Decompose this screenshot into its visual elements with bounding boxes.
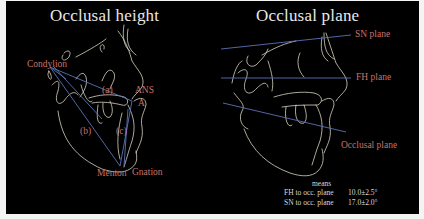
- means-row-sn-label: SN to occ. plane: [284, 198, 334, 207]
- label-sn-plane: SN plane: [355, 29, 390, 39]
- label-fh-plane: FH plane: [356, 72, 391, 82]
- label-measurement-b: (b): [80, 126, 91, 136]
- label-occlusal-plane: Occlusal plane: [341, 140, 397, 150]
- right-panel-title: Occlusal plane: [256, 6, 359, 26]
- label-ans: ANS: [135, 85, 154, 95]
- left-reference-lines: [50, 67, 132, 166]
- left-skull-tracing: [48, 25, 146, 172]
- label-condylion: Condylion: [27, 59, 67, 69]
- label-menton: Menton: [97, 168, 127, 178]
- label-gnation: Gnation: [132, 167, 163, 177]
- means-row-fh-value: 10.0±2.5°: [348, 188, 378, 197]
- means-header: means: [312, 179, 331, 188]
- label-measurement-c: (c): [116, 126, 127, 136]
- label-a-point: A: [138, 98, 145, 108]
- means-row-fh-label: FH to occ. plane: [284, 188, 334, 197]
- right-skull-tracing: [232, 33, 347, 176]
- label-measurement-a: (a): [102, 85, 113, 95]
- means-row-sn-value: 17.0±2.0°: [348, 198, 378, 207]
- figure-panel: Occlusal height: [6, 1, 419, 214]
